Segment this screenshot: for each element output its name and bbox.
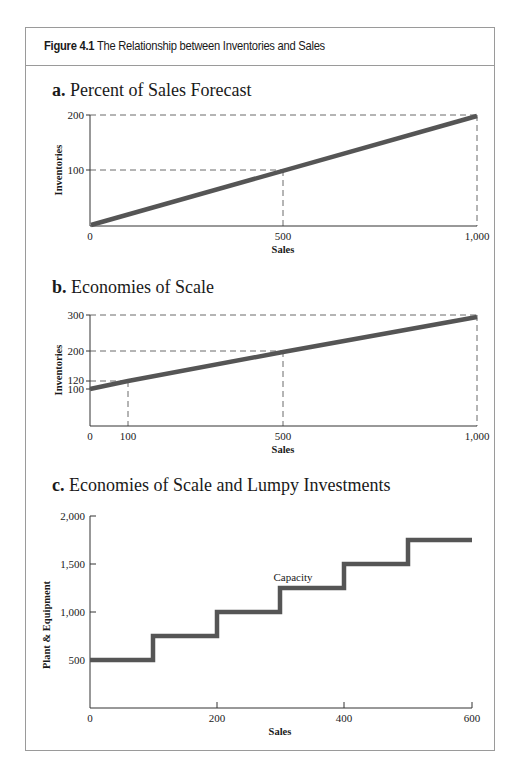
chart-b-xtick: 1,000 [465,430,490,442]
chart-b-ytick: 200 [68,345,85,357]
chart-c-xtick: 400 [336,712,353,724]
chart-b-xlabel: Sales [272,444,295,455]
chart-c-ytick: 500 [69,654,86,666]
chart-c-xtick: 600 [464,712,481,724]
chart-b-ytick: 300 [68,309,85,321]
chart-a-xtick: 500 [275,230,292,242]
chart-c-xlabel: Sales [269,726,292,737]
chart-c-ytick: 1,500 [60,558,85,570]
chart-b-line [90,317,477,389]
chart-b-ytick: 100 [68,383,85,395]
chart-a-ytick: 100 [68,164,85,176]
chart-b-xtick: 100 [120,430,137,442]
chart-b: 300 200 120 100 0 100 500 1,000 Sales In… [53,309,490,455]
chart-c-annotation: Capacity [273,571,313,583]
chart-b-xtick: 0 [87,430,93,442]
chart-a-ytick: 200 [68,109,85,121]
chart-c-ytick: 1,000 [60,606,85,618]
chart-a-xtick: 0 [87,230,93,242]
chart-c-step-line [90,540,472,660]
chart-a-ylabel: Inventories [53,145,64,196]
chart-b-xtick: 500 [275,430,292,442]
chart-a: 200 100 0 500 1,000 Sales Inventories [53,109,490,255]
charts-canvas: 200 100 0 500 1,000 Sales Inventories 30… [0,0,518,778]
chart-c: Capacity 2,000 1,500 1,000 500 0 200 400… [41,510,481,737]
chart-a-xtick: 1,000 [465,230,490,242]
chart-a-line [91,116,477,225]
chart-a-xlabel: Sales [272,244,295,255]
chart-c-xtick: 0 [87,712,93,724]
chart-b-axes [86,315,477,426]
chart-c-xtick: 200 [209,712,226,724]
chart-c-ytick: 2,000 [60,510,85,522]
chart-c-ylabel: Plant & Equipment [41,580,52,669]
chart-b-reference-lines [90,315,477,426]
chart-b-ylabel: Inventories [53,345,64,396]
